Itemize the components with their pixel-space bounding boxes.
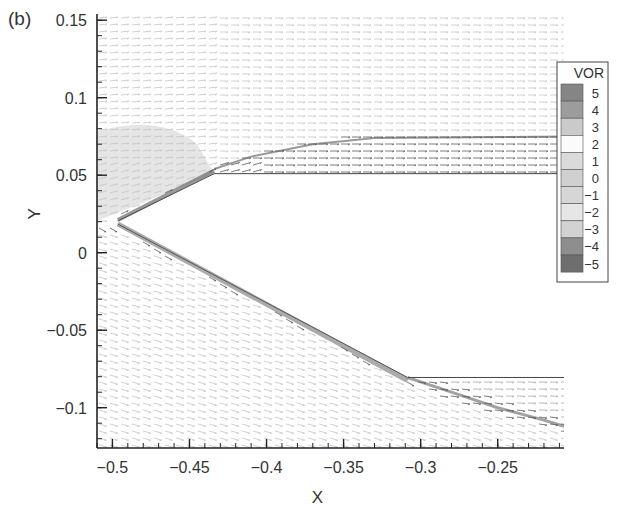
panel-label: (b)	[8, 8, 31, 30]
legend-level-label: −3	[584, 222, 599, 237]
legend-swatch	[561, 84, 583, 101]
legend-level-label: 2	[592, 137, 599, 152]
legend-level-label: −4	[584, 239, 599, 254]
legend-level-label: 5	[592, 86, 599, 101]
legend-swatch	[561, 238, 583, 255]
legend-swatch	[561, 101, 583, 118]
legend-swatch	[561, 118, 583, 135]
vorticity-vector-plot: (b) −0.5−0.45−0.4−0.35−0.3−0.250.150.10.…	[0, 0, 627, 520]
legend-level-label: 3	[592, 120, 599, 135]
legend-swatch	[561, 187, 583, 204]
y-tick-label: 0	[78, 245, 87, 262]
y-tick-label: 0.15	[56, 12, 87, 29]
x-tick-label: −0.45	[169, 459, 210, 476]
legend-swatch	[561, 221, 583, 238]
legend-swatch	[561, 255, 583, 272]
legend-level-label: 1	[592, 154, 599, 169]
legend-level-label: −1	[584, 188, 599, 203]
legend-level-label: −5	[584, 257, 599, 272]
legend-level-label: 0	[592, 171, 599, 186]
legend-swatch	[561, 152, 583, 169]
y-tick-label: 0.05	[56, 167, 87, 184]
y-tick-label: −0.05	[47, 322, 88, 339]
legend-swatch	[561, 204, 583, 221]
x-tick-label: −0.35	[323, 459, 364, 476]
x-tick-label: −0.3	[405, 459, 437, 476]
legend-level-label: 4	[592, 103, 599, 118]
legend-swatch	[561, 170, 583, 187]
y-tick-label: −0.1	[55, 400, 87, 417]
x-tick-label: −0.25	[477, 459, 518, 476]
vor-legend: VOR543210−1−2−3−4−5	[557, 62, 608, 282]
x-axis-title: X	[312, 488, 323, 507]
plot-canvas: −0.5−0.45−0.4−0.35−0.3−0.250.150.10.050−…	[0, 0, 627, 520]
legend-swatch	[561, 135, 583, 152]
legend-title: VOR	[574, 65, 604, 81]
x-tick-label: −0.5	[97, 459, 129, 476]
y-tick-label: 0.1	[65, 90, 87, 107]
y-axis-title: Y	[25, 208, 44, 219]
legend-level-label: −2	[584, 205, 599, 220]
x-tick-label: −0.4	[251, 459, 283, 476]
